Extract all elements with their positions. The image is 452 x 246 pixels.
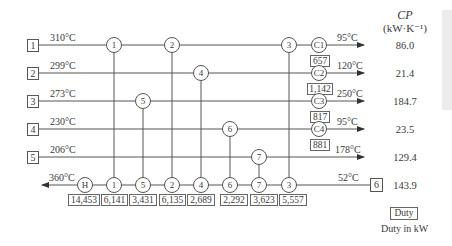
stream-2-inlet-temp: 299°C [50,61,76,71]
stream-5-cp: 129.4 [380,152,430,163]
heater-h-duty: 14,453 [68,194,100,206]
cooler-c3: C3 [311,93,327,109]
exchanger-7-hot: 7 [251,149,267,165]
legend-duty-caption: Duty in kW [381,224,428,234]
stream-3-inlet-temp: 273°C [50,89,76,99]
heater-h: H [77,177,93,193]
exchanger-7-cold: 7 [251,177,267,193]
cooler-c2: C2 [311,65,327,81]
stream-6-inlet-temp: 52°C [338,173,359,183]
exchanger-2-duty: 6,135 [159,194,186,206]
exchanger-2-cold: 2 [164,177,180,193]
stream-5-box: 5 [27,151,39,164]
exchanger-4-cold: 4 [193,177,209,193]
stream-5-outlet-temp: 178°C [335,145,361,155]
stream-4-outlet-temp: 95°C [337,117,358,127]
stream-6-cp: 143.9 [380,180,430,191]
exchanger-3-cold: 3 [281,177,297,193]
exchanger-3-duty: 5,557 [279,194,307,206]
stream-5-inlet-temp: 206°C [50,145,76,155]
stream-2-outlet-temp: 120°C [337,61,363,71]
legend-duty-box: Duty [390,207,418,220]
stream-3-cp: 184.7 [380,96,430,107]
stream-3-box: 3 [27,95,39,108]
stream-4-box: 4 [27,123,39,136]
cp-header-title: CP [380,8,430,23]
exchanger-5-hot: 5 [135,93,151,109]
exchanger-4-duty: 2,689 [187,194,215,206]
exchanger-5-cold: 5 [135,177,151,193]
exchanger-2-hot: 2 [164,37,180,53]
exchanger-6-hot: 6 [222,121,238,137]
stream-1-outlet-temp: 95°C [337,33,358,43]
stream-2-cp: 21.4 [380,68,430,79]
stream-2-box: 2 [27,67,39,80]
exchanger-5-duty: 3,431 [129,194,157,206]
stream-1-cp: 86.0 [380,40,430,51]
stream-1-inlet-temp: 310°C [50,33,76,43]
exchanger-3-hot: 3 [281,37,297,53]
exchanger-1-cold: 1 [106,177,122,193]
stream-4-inlet-temp: 230°C [50,117,76,127]
exchanger-4-hot: 4 [193,65,209,81]
stream-1-box: 1 [27,39,39,52]
exchanger-6-cold: 6 [222,177,238,193]
stream-4-cp: 23.5 [380,124,430,135]
cooler-c4-duty: 881 [310,139,330,151]
exchanger-7-duty: 3,623 [250,194,278,206]
stream-6-outlet-temp: 360°C [49,173,75,183]
exchanger-1-hot: 1 [106,37,122,53]
cp-header-unit: (kW·K⁻¹) [376,22,434,35]
exchanger-6-duty: 2,292 [220,194,248,206]
exchanger-1-duty: 6,141 [101,194,128,206]
stream-3-outlet-temp: 250°C [337,89,363,99]
cooler-c4: C4 [311,121,327,137]
cooler-c1: C1 [311,37,327,53]
